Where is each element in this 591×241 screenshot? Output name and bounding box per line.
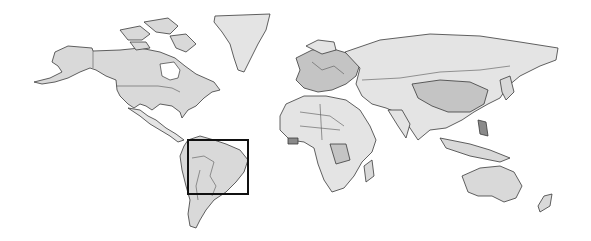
central-america [128,108,184,142]
europe [296,40,360,92]
asia [345,34,558,162]
south-america [180,136,248,228]
australia [462,166,522,202]
africa [280,96,376,192]
world-map [0,0,591,241]
new-zealand [538,194,552,212]
greenland [214,14,270,72]
north-america [34,18,220,118]
